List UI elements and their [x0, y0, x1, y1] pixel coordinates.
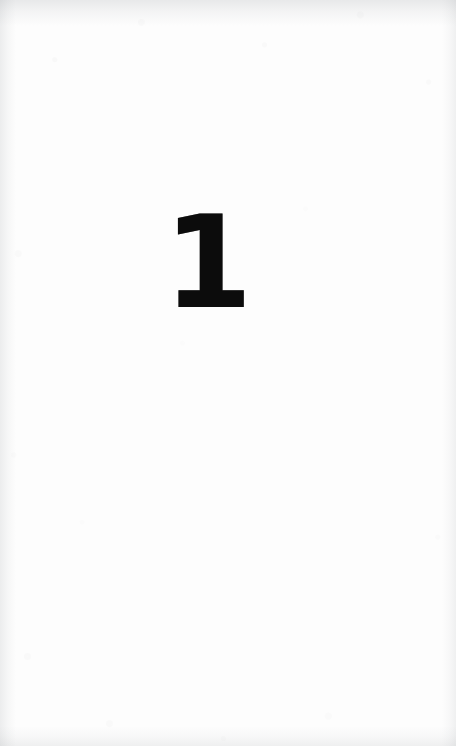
paper-background [0, 0, 456, 746]
part-number: 1 [163, 199, 252, 327]
part-opener-number-block: 1 [0, 199, 456, 327]
scanned-page: 1 [0, 0, 456, 746]
